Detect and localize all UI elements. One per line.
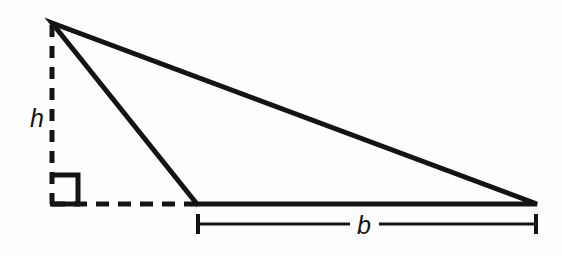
height-label: h: [30, 104, 44, 132]
canvas-background: [0, 0, 562, 256]
triangle-svg: h b: [0, 0, 562, 256]
geometry-diagram: h b: [0, 0, 562, 256]
base-label: b: [357, 211, 371, 239]
